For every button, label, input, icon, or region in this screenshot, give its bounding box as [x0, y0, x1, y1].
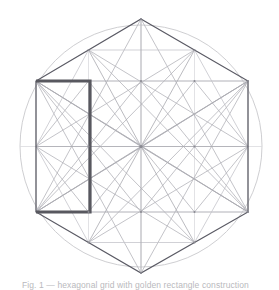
figure-caption: Fig. 1 — hexagonal grid with golden rect…: [22, 280, 249, 290]
vertex-dot-bottom: [140, 272, 142, 274]
vertex-dot-top-right-mid: [194, 49, 196, 51]
chord-midleft-to-midright-upper: [36, 50, 195, 147]
radial-to-top-right-mid: [141, 50, 195, 147]
vertex-dot-grid-d: [194, 211, 196, 213]
chord-lr-to-midtopleft: [89, 50, 249, 212]
vertex-dot-grid-f: [88, 146, 90, 148]
chord-midright-to-midleft-lower: [89, 147, 249, 243]
vertex-dot-grid-c: [194, 80, 196, 82]
chord-ul-to-midbottomright: [36, 81, 195, 243]
vertex-dot-grid-b: [140, 211, 142, 213]
chord-ur-to-midbottomleft: [89, 81, 249, 243]
vertex-dot-upper-right: [247, 80, 249, 82]
vertex-dot-lower-right: [247, 211, 249, 213]
radial-to-bottom-right-mid: [141, 147, 195, 243]
chord-midright-to-midleft-upper: [89, 50, 249, 147]
vertex-dot-grid-g: [88, 211, 90, 213]
vertex-dot-bottom-left-mid: [88, 242, 90, 244]
vertex-dot-top-left-mid: [88, 49, 90, 51]
chord-midleft-to-midright-lower: [36, 147, 195, 243]
vertex-dot-grid-e: [194, 146, 196, 148]
geometric-figure: Fig. 1 — hexagonal grid with golden rect…: [0, 0, 279, 290]
vertex-markers-layer: [88, 18, 250, 274]
chord-ll-to-midtopright: [36, 50, 195, 212]
vertex-dot-center: [139, 145, 142, 148]
geometry-canvas: [0, 0, 279, 290]
vertex-dot-grid-a: [140, 80, 142, 82]
vertex-dot-bottom-right-mid: [194, 242, 196, 244]
vertex-dot-top: [140, 18, 142, 20]
caption-strip: Fig. 1 — hexagonal grid with golden rect…: [0, 280, 279, 290]
